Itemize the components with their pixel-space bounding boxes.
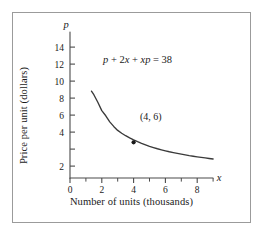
y-tick-label: 10 [55,77,65,87]
x-axis-ticks [70,178,213,183]
y-tick-label: 4 [59,128,64,138]
equation-plus2: + [129,54,140,65]
y-axis-variable-label: p [62,19,68,30]
equation-value: 38 [162,54,173,65]
y-axis-caption: Price per unit (dollars) [18,46,29,186]
x-axis-variable-label: x [216,172,222,183]
figure-container: p x 14 12 10 8 6 4 2 [0,0,263,236]
y-tick-label: 2 [59,162,64,172]
annotated-point-marker [132,140,136,144]
x-axis-tick-labels: 0 2 4 6 8 [68,185,200,195]
x-tick-label: 4 [131,185,136,195]
annotated-point-label: (4, 6) [140,111,162,123]
x-axis-caption: Number of units (thousands) [0,196,263,207]
x-tick-label: 6 [163,185,168,195]
y-axis-tick-labels: 14 12 10 8 6 4 2 [55,43,65,172]
y-tick-label: 12 [55,60,65,70]
y-tick-label: 6 [59,111,64,121]
y-axis-ticks [70,47,75,166]
x-tick-label: 8 [195,185,200,195]
x-tick-label: 0 [68,185,73,195]
y-tick-label: 8 [59,94,64,104]
x-tick-label: 2 [99,185,104,195]
equation-annotation: p + 2x + xp = 38 [102,54,172,65]
equation-plus1: + [108,54,119,65]
y-tick-label: 14 [55,43,65,53]
equation-equals: = [150,54,161,65]
demand-curve [91,91,213,159]
